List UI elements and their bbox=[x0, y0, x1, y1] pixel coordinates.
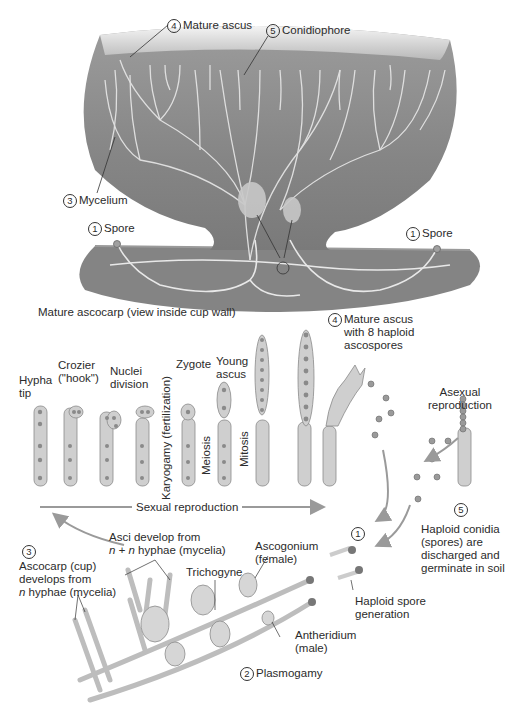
label-1-marker: 1 bbox=[351, 527, 367, 541]
label-haploid-conidia: Haploid conidia (spores) are discharged … bbox=[421, 523, 505, 575]
germinating-spores bbox=[330, 546, 363, 590]
label-3-marker: 3 bbox=[22, 545, 38, 559]
label-ascogonium: Ascogonium (female) bbox=[255, 540, 318, 566]
label-asci-develop: Asci develop from n + n hyphae (mycelia) bbox=[109, 531, 226, 557]
label-mitosis: Mitosis bbox=[238, 431, 250, 467]
stage-young-ascus: Young ascus bbox=[216, 355, 248, 381]
label-asexual-reproduction: Asexual reproduction bbox=[428, 386, 492, 412]
label-5-marker: 5 bbox=[454, 503, 470, 517]
label-haploid-spore-generation: Haploid spore generation bbox=[355, 595, 426, 621]
label-sexual-reproduction: Sexual reproduction bbox=[132, 501, 242, 514]
stage-nuclei-division: Nuclei division bbox=[110, 365, 148, 391]
label-meiosis: Meiosis bbox=[200, 436, 212, 475]
soil-layer bbox=[79, 246, 480, 312]
label-karyogamy: Karyogamy (fertilization) bbox=[160, 376, 172, 500]
label-mature-ascus: 4Mature ascus bbox=[167, 19, 252, 33]
stage-zygote: Zygote bbox=[176, 358, 211, 371]
label-plasmogamy: 2Plasmogamy bbox=[240, 667, 322, 681]
label-mature-ascus-8-spores: 4Mature ascus with 8 haploid ascospores bbox=[328, 313, 414, 352]
label-mycelium: 3Mycelium bbox=[63, 194, 128, 208]
stage-crozier: Crozier ("hook") bbox=[58, 359, 99, 385]
ascus-development-sequence bbox=[34, 330, 471, 486]
label-antheridium: Antheridium (male) bbox=[295, 629, 356, 655]
label-trichogyne: Trichogyne bbox=[186, 566, 242, 579]
label-spore-left: 1Spore bbox=[88, 222, 135, 236]
ascocarp-caption: Mature ascocarp (view inside cup wall) bbox=[38, 306, 236, 319]
label-spore-right: 1Spore bbox=[406, 227, 453, 241]
label-conidiophore: 5Conidiophore bbox=[266, 24, 350, 38]
stage-hypha-tip: Hypha tip bbox=[19, 374, 52, 400]
label-ascocarp-develops: Ascocarp (cup) develops from n hyphae (m… bbox=[19, 560, 116, 599]
